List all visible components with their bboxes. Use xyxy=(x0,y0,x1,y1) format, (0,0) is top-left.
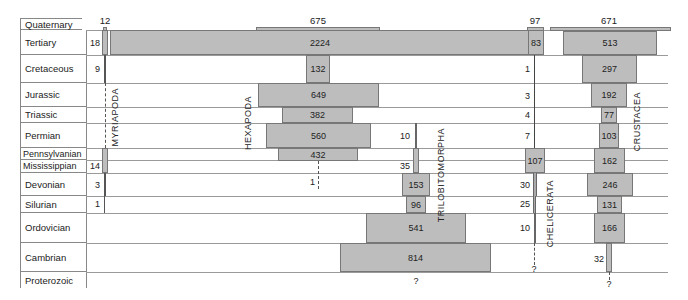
era-jurassic: Jurassic xyxy=(20,83,86,107)
crustacea-bar-carboniferous: 162 xyxy=(594,148,625,173)
myriapoda-bar-mississippian xyxy=(102,148,108,173)
trilobitomorpha-mississippian-value: 35 xyxy=(392,161,410,171)
crustacea-bar-devonian: 246 xyxy=(587,173,633,196)
crustacea-bar-silurian: 131 xyxy=(597,196,622,213)
hexapoda-bar-pennsylvanian: 432 xyxy=(278,148,358,161)
grid-line xyxy=(86,272,668,273)
era-triassic: Triassic xyxy=(20,107,86,123)
chelicerata-bar-devonian xyxy=(533,173,537,196)
trilobitomorpha-bar-cambrian: 814 xyxy=(340,243,491,272)
myriapoda-gap xyxy=(105,83,106,148)
grid-line xyxy=(86,196,668,197)
trilobitomorpha-bar-carboniferous xyxy=(413,148,419,173)
chelicerata-cretaceous-value: 1 xyxy=(515,64,530,74)
trilobitomorpha-bar-ordovician: 541 xyxy=(366,213,466,243)
chelicerata-silurian-value: 25 xyxy=(510,199,530,209)
grid-line xyxy=(86,123,668,124)
myriapoda-mississippian-value: 14 xyxy=(84,161,100,171)
crustacea-bar-jurassic: 192 xyxy=(591,83,627,107)
chelicerata-ordovician-value: 10 xyxy=(510,223,530,233)
era-mississippian: Mississippian xyxy=(20,160,86,173)
hexapoda-gap xyxy=(318,161,319,189)
era-permian: Permian xyxy=(20,123,86,148)
hexapoda-bar-triassic: 382 xyxy=(282,107,353,123)
chelicerata-bar-ordovician xyxy=(534,213,536,243)
era-silurian: Silurian xyxy=(20,196,86,213)
chelicerata-bar-carboniferous: 107 xyxy=(525,148,545,173)
trilobitomorpha-bar-permian xyxy=(415,123,417,148)
trilobitomorpha-proterozoic-value: ? xyxy=(413,276,418,286)
hexapoda-bar-jurassic: 649 xyxy=(258,83,379,107)
chelicerata-devonian-value: 30 xyxy=(510,180,530,190)
grid-line xyxy=(86,55,668,56)
myriapoda-quaternary-value: 12 xyxy=(100,15,111,26)
trilobitomorpha-bar-silurian: 96 xyxy=(406,196,426,213)
chelicerata-bar-tertiary: 83 xyxy=(528,30,544,55)
chelicerata-gap xyxy=(534,243,535,265)
trilobitomorpha-bar-devonian: 153 xyxy=(402,173,430,196)
crustacea-proterozoic-value: ? xyxy=(606,279,611,289)
hexapoda-bar-tertiary: 2224 xyxy=(110,30,530,55)
era-pennsylvanian: Pennsylvanian xyxy=(20,148,86,160)
chelicerata-permian-value: 7 xyxy=(515,131,530,141)
chelicerata-bar-silurian xyxy=(533,196,536,213)
myriapoda-devonian-value: 3 xyxy=(84,180,100,190)
chelicerata-quaternary-value: 97 xyxy=(530,15,541,26)
myriapoda-cretaceous-value: 9 xyxy=(84,64,100,74)
era-proterozoic: Proterozoic xyxy=(20,272,86,288)
grid-line xyxy=(86,107,668,108)
crustacea-bar-ordovician: 166 xyxy=(594,213,625,243)
era-tertiary: Tertiary xyxy=(20,30,86,55)
crustacea-bar-cambrian xyxy=(606,243,612,272)
grid-line xyxy=(86,148,668,149)
crustacea-bar-triassic: 77 xyxy=(601,107,617,123)
chelicerata-label: CHELICERATA xyxy=(545,180,555,247)
myriapoda-label: MYRIAPODA xyxy=(110,88,120,147)
grid-line xyxy=(86,160,668,161)
era-cretaceous: Cretaceous xyxy=(20,55,86,83)
crustacea-cambrian-value: 32 xyxy=(588,254,604,264)
hexapoda-devonian-value: 1 xyxy=(300,177,315,187)
chelicerata-bar-cretaceous-permian xyxy=(534,55,535,148)
crustacea-bar-permian: 103 xyxy=(599,123,619,148)
myriapoda-bar-devonian xyxy=(104,173,106,196)
crustacea-label: CRUSTACEA xyxy=(632,92,642,151)
myriapoda-tertiary-value: 18 xyxy=(84,38,100,48)
myriapoda-bar-cretaceous xyxy=(104,55,106,83)
era-quaternary: Quaternary xyxy=(20,18,82,30)
era-cambrian: Cambrian xyxy=(20,243,86,272)
hexapoda-quaternary-value: 675 xyxy=(310,15,326,26)
trilobitomorpha-label: TRILOBITOMORPHA xyxy=(436,128,446,222)
era-devonian: Devonian xyxy=(20,173,86,196)
grid-line xyxy=(86,173,668,174)
hexapoda-bar-cretaceous: 132 xyxy=(306,55,330,83)
myriapoda-bar-tertiary xyxy=(102,30,108,55)
crustacea-bar-cretaceous: 297 xyxy=(582,55,637,83)
crustacea-quaternary-value: 671 xyxy=(601,15,617,26)
crustacea-bar-tertiary: 513 xyxy=(563,31,657,55)
chelicerata-triassic-value: 4 xyxy=(515,110,530,120)
chelicerata-jurassic-value: 3 xyxy=(515,91,530,101)
chelicerata-cambrian-value: ? xyxy=(531,264,536,274)
era-ordovician: Ordovician xyxy=(20,213,86,243)
myriapoda-silurian-value: 1 xyxy=(84,199,100,209)
arthropod-diversity-chart: Quaternary Tertiary Cretaceous Jurassic … xyxy=(0,0,688,300)
myriapoda-bar-silurian xyxy=(104,196,105,213)
hexapoda-bar-permian: 560 xyxy=(266,123,371,148)
trilobitomorpha-permian-value: 10 xyxy=(392,131,410,141)
hexapoda-label: HEXAPODA xyxy=(243,96,253,150)
